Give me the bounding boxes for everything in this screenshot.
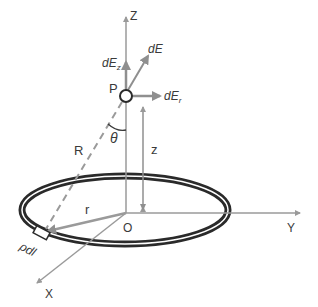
r-label: r [85, 202, 90, 217]
dE-label: dE [148, 42, 164, 56]
point-P-label: P [109, 81, 118, 96]
z-axis-label: Z [130, 9, 137, 23]
dEr-label: dEr [164, 89, 182, 105]
dEz-label: dEz [102, 56, 121, 72]
dEr-base: dE [164, 89, 180, 103]
dEz-base: dE [102, 56, 118, 70]
dEr-sub: r [179, 96, 182, 105]
point-P [120, 90, 132, 102]
dEz-sub: z [116, 63, 121, 72]
z-label: z [151, 142, 158, 157]
R-label: R [74, 143, 83, 158]
x-axis-label: X [45, 287, 53, 301]
R-dashed-line [46, 102, 122, 229]
origin-label: O [123, 221, 132, 235]
dE-vector [128, 56, 148, 90]
ring-field-diagram: Z Y X O P dE dEz dEr θ R r z ρdl [0, 0, 318, 307]
theta-label: θ [110, 130, 118, 146]
charge-element-label: ρdl [16, 239, 38, 260]
y-axis-label: Y [287, 221, 295, 235]
